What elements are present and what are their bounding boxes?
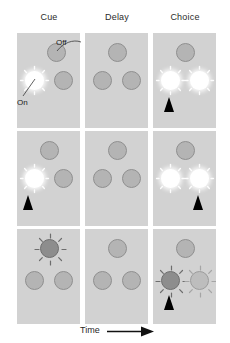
time-arrow-icon <box>107 326 155 337</box>
column-header-choice: Choice <box>153 12 217 23</box>
light-right-port-off <box>122 169 141 188</box>
trial-panel-row3-choice <box>153 229 216 324</box>
light-glow-icon <box>155 65 186 96</box>
light-left-port-on <box>25 71 44 90</box>
panel-inner <box>17 131 80 226</box>
callout-label-on: On <box>17 98 28 107</box>
light-top-port-off <box>176 239 195 258</box>
time-axis-label: Time <box>80 325 100 335</box>
panel-inner <box>153 131 216 226</box>
light-glow-icon <box>19 163 50 194</box>
ray-burst-icon <box>34 233 67 266</box>
light-right-port-off <box>54 169 73 188</box>
light-top-port-off <box>176 43 195 62</box>
callout-label-off: Off <box>56 38 67 47</box>
task-schematic-figure: Cue Delay Choice <box>0 0 230 343</box>
light-glow-icon <box>19 65 50 96</box>
light-left-port-off <box>93 271 112 290</box>
light-glow-icon <box>155 163 186 194</box>
trial-panel-row3-cue <box>17 229 80 324</box>
light-glow-icon <box>184 65 215 96</box>
light-top-port-off <box>108 43 127 62</box>
light-top-port-off <box>40 141 59 160</box>
light-right-port-on <box>190 169 209 188</box>
panel-inner <box>17 229 80 324</box>
trial-panel-row2-cue <box>17 131 80 226</box>
light-top-port-off <box>108 141 127 160</box>
light-right-port-pale-rays <box>190 271 209 290</box>
light-left-port-on <box>161 169 180 188</box>
trial-panel-row1-delay <box>85 33 148 128</box>
panel-inner <box>85 33 148 128</box>
light-left-port-on <box>25 169 44 188</box>
light-left-port-off <box>93 169 112 188</box>
ray-burst-icon <box>184 265 216 298</box>
light-left-port-dark-rays <box>161 271 180 290</box>
trial-panel-row1-choice <box>153 33 216 128</box>
light-top-port-off <box>108 239 127 258</box>
panel-inner <box>153 33 216 128</box>
light-right-port-off <box>122 271 141 290</box>
light-right-port-off <box>54 271 73 290</box>
response-arrow-left <box>164 295 174 310</box>
light-right-port-on <box>190 71 209 90</box>
ray-burst-icon <box>155 265 188 298</box>
light-glow-icon <box>184 163 215 194</box>
light-left-port-off <box>93 71 112 90</box>
response-arrow-left <box>164 97 174 112</box>
panel-inner <box>85 229 148 324</box>
light-left-port-on <box>161 71 180 90</box>
light-right-port-off <box>54 71 73 90</box>
response-arrow-right <box>193 195 203 210</box>
time-axis: Time <box>0 322 230 342</box>
light-right-port-off <box>122 71 141 90</box>
light-left-port-off <box>25 271 44 290</box>
trial-panel-row2-delay <box>85 131 148 226</box>
trial-panel-row1-cue <box>17 33 80 128</box>
light-top-port-off <box>176 141 195 160</box>
panel-inner <box>153 229 216 324</box>
trial-panel-row2-choice <box>153 131 216 226</box>
trial-panel-row3-delay <box>85 229 148 324</box>
panel-inner <box>17 33 80 128</box>
light-top-port-dark-rays <box>40 239 59 258</box>
response-arrow-left <box>23 195 33 210</box>
column-header-delay: Delay <box>85 12 149 23</box>
panel-inner <box>85 131 148 226</box>
column-header-cue: Cue <box>17 12 81 23</box>
